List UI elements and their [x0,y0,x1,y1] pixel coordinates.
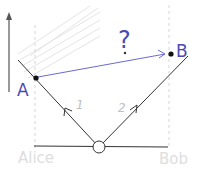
alice-label: Alice [18,149,54,167]
signal-a-to-b [38,54,165,77]
arrow-1-icon [64,108,72,116]
event-a-label: A [17,80,29,100]
light-ray-1 [18,60,97,145]
light-ray-2 [101,56,188,145]
hatched-region [18,6,100,78]
path-1-label: 1 [76,98,84,112]
time-axis [6,12,12,92]
path-2-label: 2 [118,101,126,115]
event-a-dot [33,75,38,80]
question-dot [124,52,126,54]
spacetime-diagram: A B ? 1 2 Alice Bob [0,0,199,176]
emission-point [93,141,105,153]
question-label: ? [118,26,131,54]
event-b-label: B [176,41,188,61]
bob-label: Bob [159,150,188,168]
event-b-dot [168,51,173,56]
